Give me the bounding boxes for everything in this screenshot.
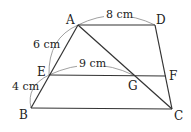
label-D: D bbox=[156, 13, 166, 27]
measure-EG: 9 cm bbox=[79, 57, 107, 70]
label-B: B bbox=[19, 108, 28, 122]
label-E: E bbox=[37, 65, 46, 79]
segment-EF bbox=[49, 75, 166, 76]
trapezoid-diagram: A D E F B C G 8 cm 6 cm 9 cm 4 cm bbox=[0, 0, 191, 132]
measure-AE: 6 cm bbox=[33, 38, 61, 51]
measure-AD: 8 cm bbox=[106, 8, 134, 21]
segment-BC bbox=[31, 108, 172, 109]
label-G: G bbox=[128, 79, 138, 93]
label-F: F bbox=[169, 69, 177, 83]
label-A: A bbox=[65, 13, 75, 27]
label-C: C bbox=[174, 109, 183, 123]
measure-EB: 4 cm bbox=[12, 80, 40, 93]
